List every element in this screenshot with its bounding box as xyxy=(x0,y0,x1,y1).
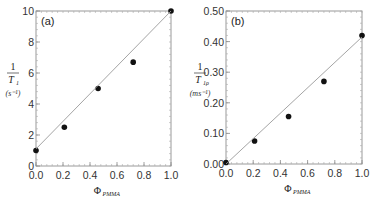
data-point xyxy=(62,124,68,130)
data-point xyxy=(286,114,292,120)
y-label-numerator: 1 xyxy=(198,61,203,72)
data-point xyxy=(130,59,136,65)
y-tick-label: 8 xyxy=(28,36,34,48)
fit-line xyxy=(36,11,171,149)
y-tick-label: 0 xyxy=(28,160,34,172)
y-label-denominator: T xyxy=(8,74,15,85)
y-tick-label: 2 xyxy=(28,129,34,141)
panel-label: (a) xyxy=(41,15,54,27)
y-tick-label: 0.00 xyxy=(204,158,225,170)
y-tick-label: 0.30 xyxy=(204,66,225,78)
y-tick-label: 6 xyxy=(28,67,34,79)
x-axis-label-symbol: Φ xyxy=(284,183,291,194)
y-tick-label: 4 xyxy=(28,98,34,110)
x-tick-label: 0.4 xyxy=(83,169,98,181)
x-tick-label: 0.2 xyxy=(246,167,261,179)
plot-frame xyxy=(226,11,362,164)
y-label-unit: (ms⁻¹) xyxy=(190,89,211,98)
data-point xyxy=(95,86,101,92)
y-label-denominator-subscript: 1ρ xyxy=(203,80,209,86)
y-tick-label: 0.20 xyxy=(204,97,225,109)
plot-frame xyxy=(36,11,171,166)
data-point xyxy=(321,79,327,85)
y-label-numerator: 1 xyxy=(11,61,16,72)
x-tick-label: 1.0 xyxy=(355,167,370,179)
y-label-unit: (s⁻¹) xyxy=(6,89,21,98)
x-tick-label: 0.8 xyxy=(327,167,342,179)
x-tick-label: 0.6 xyxy=(300,167,315,179)
y-label-denominator: T xyxy=(195,74,202,85)
x-tick-label: 0.8 xyxy=(137,169,152,181)
chart-panel-b: 0.00.20.40.60.81.00.000.100.200.300.400.… xyxy=(190,5,370,195)
x-tick-label: 0.2 xyxy=(56,169,71,181)
chart-figure: 0.00.20.40.60.81.00246810(a)1T1(s⁻¹)ΦPMM… xyxy=(0,0,376,197)
panel-label: (b) xyxy=(231,15,244,27)
y-tick-label: 0.10 xyxy=(204,127,225,139)
x-axis-label-subscript: PMMA xyxy=(292,189,311,195)
x-axis-label-subscript: PMMA xyxy=(102,191,121,197)
y-tick-label: 10 xyxy=(22,5,34,17)
fit-line xyxy=(226,37,362,164)
x-tick-label: 1.0 xyxy=(164,169,179,181)
x-tick-label: 0.4 xyxy=(273,167,288,179)
y-tick-label: 0.50 xyxy=(204,5,225,17)
y-axis-label: 1T1(s⁻¹) xyxy=(6,61,21,98)
y-tick-label: 0.40 xyxy=(204,36,225,48)
x-axis-label-symbol: Φ xyxy=(94,185,101,196)
x-tick-label: 0.6 xyxy=(110,169,125,181)
chart-panel-a: 0.00.20.40.60.81.00246810(a)1T1(s⁻¹)ΦPMM… xyxy=(6,5,179,197)
y-label-denominator-subscript: 1 xyxy=(16,80,19,86)
